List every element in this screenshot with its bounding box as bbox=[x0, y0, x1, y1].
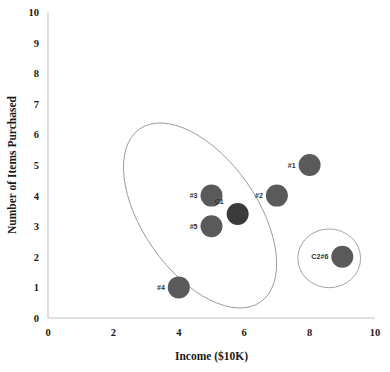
y-tick-label: 3 bbox=[34, 221, 39, 232]
x-tick-label: 8 bbox=[307, 327, 312, 338]
y-tick-label: 6 bbox=[34, 129, 39, 140]
point-label-p3: #3 bbox=[190, 192, 198, 199]
cluster-boundary-c1 bbox=[93, 96, 308, 335]
y-tick-labels: 012345678910 bbox=[29, 7, 40, 324]
x-axis-title: Income ($10K) bbox=[175, 350, 248, 363]
x-tick-label: 0 bbox=[45, 327, 50, 338]
x-tick-label: 2 bbox=[111, 327, 116, 338]
x-tick-labels: 0246810 bbox=[45, 327, 380, 338]
y-tick-label: 0 bbox=[34, 313, 39, 324]
x-tick-label: 6 bbox=[242, 327, 247, 338]
x-tick-label: 10 bbox=[370, 327, 381, 338]
y-tick-label: 8 bbox=[34, 68, 39, 79]
point-label-p1: #1 bbox=[288, 162, 296, 169]
y-tick-label: 1 bbox=[34, 282, 39, 293]
point-label-p6: #6 bbox=[321, 253, 329, 260]
y-axis-title: Number of Items Purchased bbox=[6, 95, 18, 233]
point-label-p4: #4 bbox=[157, 284, 165, 291]
y-tick-label: 10 bbox=[29, 7, 40, 18]
point-label-p2: #2 bbox=[255, 192, 263, 199]
data-point-p1 bbox=[299, 154, 321, 176]
y-tick-label: 4 bbox=[34, 191, 40, 202]
plot-area: 0246810 012345678910 #1#2#3#4#5#6C1C2 In… bbox=[0, 0, 390, 372]
data-point-c1 bbox=[227, 203, 249, 225]
point-label-c2: C2 bbox=[311, 253, 320, 260]
data-point-layer: #1#2#3#4#5#6C1C2 bbox=[157, 154, 353, 298]
scatter-chart: 0246810 012345678910 #1#2#3#4#5#6C1C2 In… bbox=[0, 0, 390, 372]
data-point-p2 bbox=[266, 185, 288, 207]
data-point-p6 bbox=[331, 246, 353, 268]
y-tick-label: 2 bbox=[34, 252, 39, 263]
data-point-p5 bbox=[201, 215, 223, 237]
y-tick-label: 5 bbox=[34, 160, 39, 171]
x-tick-label: 4 bbox=[176, 327, 182, 338]
axis-layer bbox=[48, 12, 375, 318]
point-label-c1: C1 bbox=[215, 198, 224, 205]
cluster-outline-layer bbox=[93, 96, 361, 335]
point-label-p5: #5 bbox=[190, 223, 198, 230]
y-tick-label: 9 bbox=[34, 38, 39, 49]
y-tick-label: 7 bbox=[34, 99, 39, 110]
data-point-p4 bbox=[168, 276, 190, 298]
